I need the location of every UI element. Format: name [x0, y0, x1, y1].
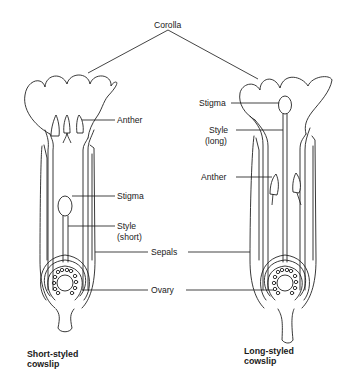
caption-long-1: Long-styled [244, 346, 294, 356]
label-anther-long: Anther [201, 172, 226, 182]
label-anther-short: Anther [117, 115, 142, 125]
label-corolla: Corolla [154, 20, 181, 30]
label-ovary: Ovary [151, 285, 175, 295]
caption-long-2: cowslip [244, 356, 277, 366]
caption-short-2: cowslip [27, 359, 60, 369]
caption-short-1: Short-styled [27, 349, 78, 359]
cowslip-diagram: Corolla Anther Stigma Style (short) Stig… [0, 0, 350, 389]
label-sepals: Sepals [151, 247, 177, 257]
label-style-short-2: (short) [117, 232, 142, 242]
label-style-long-2: (long) [205, 136, 227, 146]
label-style-short-1: Style [117, 221, 136, 231]
short-styled-flower [25, 75, 117, 332]
label-stigma-short: Stigma [117, 191, 144, 201]
long-styled-flower [240, 77, 332, 343]
label-style-long-1: Style [209, 125, 228, 135]
label-stigma-long: Stigma [199, 98, 226, 108]
